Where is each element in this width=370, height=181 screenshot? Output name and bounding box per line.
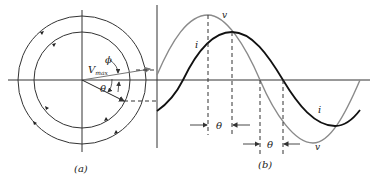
theta-label-a: θ bbox=[100, 83, 106, 94]
theta-label-b1: θ bbox=[216, 120, 222, 131]
theta-arrow bbox=[118, 82, 119, 92]
current-label-bottom: i bbox=[318, 104, 321, 115]
caption-a: (a) bbox=[74, 163, 88, 174]
phi-label: ϕ bbox=[105, 54, 112, 65]
vmax-label: Vmax bbox=[88, 64, 109, 76]
voltage-waveform bbox=[157, 15, 360, 143]
caption-b: (b) bbox=[258, 159, 272, 170]
current-waveform bbox=[157, 32, 360, 126]
theta-label-b2: θ bbox=[267, 139, 273, 150]
figure-b-waveforms: θ θ v i i v (b) bbox=[157, 5, 360, 170]
theta-arc bbox=[108, 79, 112, 92]
voltage-label-top: v bbox=[222, 10, 227, 20]
phasor-waveform-diagram: Vmax ϕ θ (a) θ θ v i i v (b) bbox=[0, 0, 370, 181]
voltage-label-bottom: v bbox=[315, 142, 320, 152]
current-label-top: i bbox=[195, 39, 198, 50]
